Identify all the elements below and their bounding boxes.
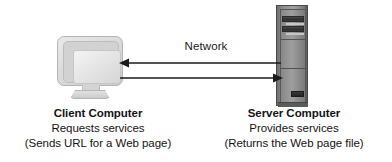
panel-divider-1 (281, 39, 305, 40)
monitor-body (57, 36, 123, 86)
client-line-2: (Sends URL for a Web page) (0, 136, 196, 151)
drive-bay-1 (282, 16, 304, 22)
drive-slot-2 (286, 33, 304, 35)
arrow-client-to-server (120, 74, 283, 83)
server-line-2: (Returns the Web page file) (196, 136, 392, 151)
network-label: Network (164, 40, 248, 52)
monitor-base (70, 90, 110, 99)
server-line-1: Provides services (196, 121, 392, 136)
server-caption: Server Computer Provides services (Retur… (196, 106, 392, 151)
server-title: Server Computer (196, 106, 392, 121)
client-title: Client Computer (0, 106, 196, 121)
monitor-bezel (63, 41, 119, 83)
crt-monitor-icon (55, 36, 125, 102)
network-arrows (118, 55, 284, 85)
panel-divider-2 (281, 68, 305, 69)
arrow-server-to-client (119, 59, 281, 68)
client-line-1: Requests services (0, 121, 196, 136)
client-caption: Client Computer Requests services (Sends… (0, 106, 196, 151)
tower-badge (291, 91, 304, 97)
diagram-canvas: Network Client Computer Requests service… (0, 0, 392, 162)
monitor-screen (73, 50, 121, 84)
drive-slot-1 (286, 23, 304, 25)
drive-bay-2 (282, 26, 304, 32)
